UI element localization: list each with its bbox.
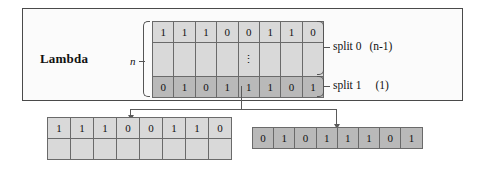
vertical-ellipsis-icon: ⋮ xyxy=(238,43,259,77)
main-cell-top-2: 1 xyxy=(195,22,216,43)
left-empty-3 xyxy=(117,139,140,160)
split1-tick-mark xyxy=(324,86,330,87)
left-cell-1: 1 xyxy=(71,118,94,139)
left-empty-0 xyxy=(48,139,71,160)
main-cell-bot-3: 1 xyxy=(217,77,238,98)
main-grid-table: 1 1 1 0 0 1 1 0 ⋮ 0 1 0 1 1 1 0 1 xyxy=(152,21,324,98)
main-cell-mid-0 xyxy=(153,43,174,77)
main-cell-top-1: 1 xyxy=(174,22,195,43)
n-size-label: n xyxy=(130,55,136,67)
connector-stem xyxy=(241,86,242,110)
main-cell-mid-1 xyxy=(174,43,195,77)
main-cell-mid-2 xyxy=(195,43,216,77)
main-cell-top-5: 1 xyxy=(259,22,280,43)
left-empty-7 xyxy=(209,139,232,160)
split0-tick-mark xyxy=(324,47,330,48)
main-cell-bot-2: 0 xyxy=(195,77,216,98)
output-left-table: 1 1 1 0 0 1 1 0 xyxy=(47,117,232,160)
lambda-label: Lambda xyxy=(40,51,88,67)
main-cell-bot-5: 1 xyxy=(259,77,280,98)
split-1-label: split 1(1) xyxy=(333,79,389,91)
left-cell-5: 1 xyxy=(163,118,186,139)
right-cell-6: 0 xyxy=(380,128,401,149)
main-cell-bot-6: 0 xyxy=(281,77,302,98)
left-cell-0: 1 xyxy=(48,118,71,139)
main-cell-bot-0: 0 xyxy=(153,77,174,98)
split-1-name: split 1 xyxy=(333,79,361,91)
main-cell-top-3: 0 xyxy=(217,22,238,43)
table-row: 0 1 0 1 1 1 0 1 xyxy=(153,77,324,98)
right-cell-7: 1 xyxy=(401,128,422,149)
main-cell-mid-5 xyxy=(259,43,280,77)
split-0-count: (n-1) xyxy=(369,40,392,52)
right-cell-1: 1 xyxy=(274,128,295,149)
right-cell-3: 1 xyxy=(316,128,337,149)
table-row: ⋮ xyxy=(153,43,324,77)
left-empty-2 xyxy=(94,139,117,160)
left-brace xyxy=(143,21,150,97)
table-row: 1 1 1 0 0 1 1 0 xyxy=(48,118,232,139)
left-cell-7: 0 xyxy=(209,118,232,139)
split-0-label: split 0(n-1) xyxy=(333,40,392,52)
main-cell-top-0: 1 xyxy=(153,22,174,43)
table-row: 1 1 1 0 0 1 1 0 xyxy=(153,22,324,43)
split-1-count: (1) xyxy=(375,79,388,91)
table-row: 0 1 0 1 1 1 0 1 xyxy=(253,128,423,149)
main-cell-bot-1: 1 xyxy=(174,77,195,98)
left-cell-2: 1 xyxy=(94,118,117,139)
main-cell-mid-6 xyxy=(281,43,302,77)
connector-horizontal xyxy=(130,109,337,110)
right-cell-0: 0 xyxy=(253,128,274,149)
right-cell-2: 0 xyxy=(295,128,316,149)
left-empty-5 xyxy=(163,139,186,160)
left-cell-3: 0 xyxy=(117,118,140,139)
output-right-table: 0 1 0 1 1 1 0 1 xyxy=(252,127,423,149)
left-cell-4: 0 xyxy=(140,118,163,139)
diagram-canvas: Lambda n 1 1 1 0 0 1 1 0 ⋮ 0 1 0 1 xyxy=(0,0,485,171)
left-empty-4 xyxy=(140,139,163,160)
right-cell-4: 1 xyxy=(337,128,358,149)
right-brace-split0 xyxy=(317,21,324,75)
split-0-name: split 0 xyxy=(333,40,361,52)
table-row xyxy=(48,139,232,160)
right-brace-split1 xyxy=(317,76,324,97)
main-cell-top-6: 1 xyxy=(281,22,302,43)
left-empty-1 xyxy=(71,139,94,160)
main-cell-mid-3 xyxy=(217,43,238,77)
left-empty-6 xyxy=(186,139,209,160)
left-cell-6: 1 xyxy=(186,118,209,139)
right-cell-5: 1 xyxy=(358,128,379,149)
main-cell-top-4: 0 xyxy=(238,22,259,43)
